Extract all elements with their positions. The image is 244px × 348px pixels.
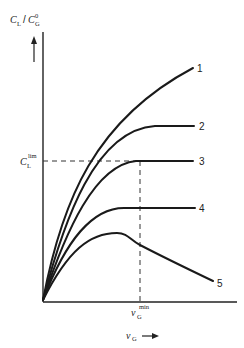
svg-text:L: L — [27, 162, 31, 169]
svg-text:C: C — [10, 14, 17, 25]
svg-text:G: G — [137, 313, 142, 320]
svg-text:C: C — [20, 156, 27, 167]
svg-text:C: C — [28, 14, 35, 25]
curve-label-4: 4 — [199, 203, 205, 214]
curve-1 — [43, 68, 193, 300]
curve-3 — [43, 161, 193, 300]
svg-text:G: G — [132, 335, 137, 342]
svg-text:/: / — [23, 14, 26, 25]
x-axis-label: v G — [126, 330, 137, 342]
figure-canvas: C L / C G 0 C L lim 1 2 3 4 5 v G min v … — [0, 0, 244, 348]
svg-text:v: v — [131, 307, 136, 318]
curve-label-1: 1 — [197, 63, 203, 74]
curve-5 — [43, 233, 213, 300]
curve-label-5: 5 — [217, 278, 223, 289]
vmin-label: v G min — [131, 303, 150, 320]
limit-label: C L lim — [20, 152, 37, 169]
svg-text:v: v — [126, 330, 131, 341]
svg-text:lim: lim — [28, 152, 37, 159]
x-axis-arrow-icon — [142, 333, 159, 339]
curve-4 — [43, 208, 195, 300]
svg-text:G: G — [35, 20, 40, 27]
svg-text:min: min — [139, 303, 150, 310]
svg-text:0: 0 — [35, 12, 38, 19]
y-axis-label: C L / C G 0 — [10, 12, 40, 27]
curve-label-3: 3 — [199, 156, 205, 167]
curve-label-2: 2 — [199, 121, 205, 132]
y-axis-arrow-icon — [31, 36, 37, 62]
svg-text:L: L — [17, 20, 21, 27]
